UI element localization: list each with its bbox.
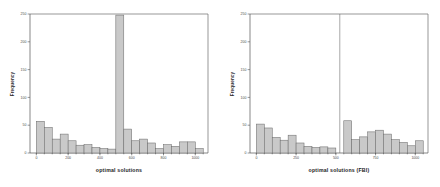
left-ytick-label-4: 200 [21, 40, 27, 44]
left-bar-3 [60, 134, 68, 153]
left-panel-xticks: 02004006008001000 [35, 153, 203, 160]
right-bar-5 [296, 143, 304, 153]
right-bar-12 [352, 140, 360, 153]
right-panel-bars [256, 14, 423, 153]
left-xtick-label-2: 400 [97, 156, 103, 160]
right-bar-18 [399, 142, 407, 153]
right-ytick-label-4: 200 [241, 40, 247, 44]
left-ytick-label-0: 0 [24, 151, 26, 155]
right-bar-4 [288, 135, 296, 153]
right-bar-20 [415, 141, 423, 153]
left-xtick-label-1: 200 [65, 156, 71, 160]
histogram-figure: 050100150200250 02004006008001000 optima… [0, 0, 440, 187]
right-xtick-label-2: 500 [333, 156, 339, 160]
right-ytick-label-3: 150 [241, 68, 247, 72]
right-bar-6 [304, 146, 312, 153]
left-panel-svg: 050100150200250 02004006008001000 optima… [0, 0, 220, 187]
right-xaxis-label: optimal solutions (FBI) [309, 167, 370, 173]
left-bar-15 [156, 149, 164, 153]
left-bar-14 [148, 143, 156, 153]
right-xtick-label-4: 1000 [411, 156, 419, 160]
left-panel-bars [36, 15, 203, 153]
right-ytick-label-2: 100 [241, 96, 247, 100]
left-yaxis-label: Frequency [10, 71, 15, 96]
right-bar-13 [360, 137, 368, 153]
left-xaxis-label: optimal solutions [96, 167, 142, 173]
right-panel-xticks: 02505007501000 [255, 153, 423, 160]
right-ytick-label-1: 50 [242, 123, 246, 127]
right-bar-3 [280, 140, 288, 153]
right-xtick-label-0: 0 [255, 156, 257, 160]
left-ytick-label-3: 150 [21, 68, 27, 72]
left-bar-4 [68, 141, 76, 153]
left-bar-7 [92, 147, 100, 153]
left-ytick-label-2: 100 [21, 96, 27, 100]
right-bar-19 [407, 146, 415, 153]
right-xtick-label-1: 250 [293, 156, 299, 160]
left-bar-20 [195, 149, 203, 153]
left-bar-12 [132, 141, 140, 153]
right-ytick-label-5: 250 [241, 12, 247, 16]
right-bar-1 [264, 128, 272, 153]
right-bar-0 [256, 124, 264, 153]
right-bar-8 [320, 147, 328, 153]
right-panel-plot-area: 050100150200250 02505007501000 optimal s… [220, 0, 440, 187]
left-ytick-label-1: 50 [22, 123, 26, 127]
right-bar-2 [272, 137, 280, 153]
left-bar-9 [108, 149, 116, 153]
left-bar-10 [116, 15, 124, 153]
left-xtick-label-4: 800 [161, 156, 167, 160]
right-panel: 050100150200250 02505007501000 optimal s… [220, 0, 440, 187]
left-bar-13 [140, 139, 148, 153]
left-bar-5 [76, 145, 84, 153]
left-xtick-label-3: 600 [129, 156, 135, 160]
right-panel-svg: 050100150200250 02505007501000 optimal s… [220, 0, 440, 187]
right-yaxis-label: Frequency [230, 71, 235, 96]
left-bar-16 [164, 145, 172, 153]
right-bar-9 [328, 148, 336, 153]
left-bar-6 [84, 145, 92, 153]
left-ytick-label-5: 250 [21, 12, 27, 16]
left-bar-2 [52, 139, 60, 153]
right-bar-16 [384, 134, 392, 153]
left-bar-18 [179, 142, 187, 153]
right-bar-11 [344, 121, 352, 153]
right-bar-15 [376, 130, 384, 153]
left-xtick-label-5: 1000 [191, 156, 199, 160]
left-panel-plot-area: 050100150200250 02004006008001000 optima… [0, 0, 220, 187]
left-bar-0 [36, 121, 44, 153]
left-bar-19 [187, 142, 195, 153]
left-bar-8 [100, 149, 108, 153]
left-bar-1 [44, 127, 52, 153]
left-bar-17 [171, 146, 179, 153]
right-bar-7 [312, 147, 320, 153]
right-xtick-label-3: 750 [373, 156, 379, 160]
right-bar-14 [368, 132, 376, 153]
right-bar-17 [391, 140, 399, 153]
left-xtick-label-0: 0 [35, 156, 37, 160]
left-bar-11 [124, 129, 132, 153]
right-panel-yticks: 050100150200250 [241, 12, 250, 155]
left-panel-yticks: 050100150200250 [21, 12, 30, 155]
right-ytick-label-0: 0 [244, 151, 246, 155]
right-panel-frame [250, 14, 428, 153]
left-panel: 050100150200250 02004006008001000 optima… [0, 0, 220, 187]
